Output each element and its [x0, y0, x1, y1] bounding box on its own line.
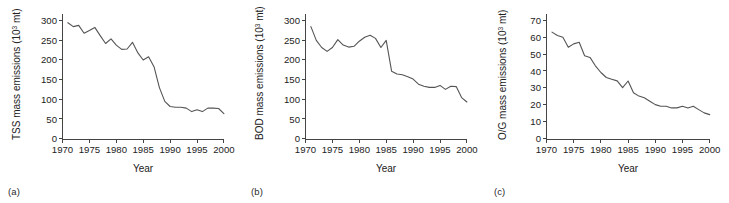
chart-c-xlabel: Year — [618, 163, 639, 174]
xtick-label: 2000 — [699, 144, 720, 155]
ytick-label: 0 — [295, 133, 300, 144]
ytick-label: 300 — [41, 15, 57, 26]
ytick-label: 100 — [41, 94, 57, 105]
ytick-label: 300 — [284, 15, 300, 26]
chart-a-xtick-labels: 1970 1975 1980 1985 1990 1995 2000 — [52, 144, 235, 155]
chart-b-svg: BOD mass emissions (103 mt) 300 250 200 … — [243, 0, 486, 203]
panel-a: TSS mass emissions (103 mt) 300 250 200 … — [0, 0, 243, 203]
chart-b-xlabel: Year — [376, 163, 397, 174]
ytick-label: 150 — [284, 74, 300, 85]
xtick-label: 1975 — [563, 144, 584, 155]
xtick-label: 1970 — [295, 144, 316, 155]
xtick-label: 1985 — [376, 144, 397, 155]
ytick-label: 0 — [52, 133, 57, 144]
xtick-label: 1990 — [402, 144, 423, 155]
chart-b-xtick-labels: 1970 1975 1980 1985 1990 1995 2000 — [295, 144, 478, 155]
ytick-label: 150 — [41, 74, 57, 85]
ytick-label: 0 — [536, 133, 541, 144]
ytick-label: 10 — [530, 116, 541, 127]
ytick-label: 20 — [530, 99, 541, 110]
xtick-label: 1995 — [672, 144, 693, 155]
chart-c-svg: O/G mass emissions (103 mt) 70 60 50 40 … — [486, 0, 729, 203]
xtick-label: 1985 — [133, 144, 154, 155]
chart-a-svg: TSS mass emissions (103 mt) 300 250 200 … — [0, 0, 243, 203]
xtick-label: 1970 — [52, 144, 73, 155]
xtick-label: 2000 — [213, 144, 234, 155]
xtick-label: 1995 — [429, 144, 450, 155]
ytick-label: 30 — [530, 82, 541, 93]
ytick-label: 200 — [284, 54, 300, 65]
panel-c: O/G mass emissions (103 mt) 70 60 50 40 … — [486, 0, 729, 203]
ytick-label: 70 — [530, 15, 541, 26]
panel-b: BOD mass emissions (103 mt) 300 250 200 … — [243, 0, 486, 203]
xtick-label: 1995 — [186, 144, 207, 155]
chart-c-ylabel-group: O/G mass emissions (103 mt) — [497, 10, 509, 140]
figure-three-panel-line-charts: TSS mass emissions (103 mt) 300 250 200 … — [0, 0, 729, 203]
chart-c-ylabel: O/G mass emissions (103 mt) — [497, 10, 509, 140]
ytick-label: 250 — [284, 35, 300, 46]
chart-a-data-line — [68, 23, 224, 114]
ytick-label: 40 — [530, 66, 541, 77]
panel-letter-a: (a) — [8, 186, 20, 197]
chart-c-data-line — [552, 32, 710, 115]
xtick-label: 1990 — [645, 144, 666, 155]
xtick-label: 1975 — [79, 144, 100, 155]
chart-b-axes — [302, 14, 468, 143]
chart-b-ytick-labels: 300 250 200 150 100 50 0 — [284, 15, 300, 144]
chart-c-xtick-labels: 1970 1975 1980 1985 1990 1995 2000 — [536, 144, 721, 155]
xtick-label: 1980 — [349, 144, 370, 155]
ytick-label: 60 — [530, 32, 541, 43]
xtick-label: 1985 — [617, 144, 638, 155]
ytick-label: 250 — [41, 35, 57, 46]
chart-a-xlabel: Year — [133, 163, 154, 174]
panel-letter-c: (c) — [494, 186, 505, 197]
xtick-label: 1970 — [536, 144, 557, 155]
chart-a-axes — [59, 14, 225, 143]
xtick-label: 1980 — [106, 144, 127, 155]
chart-c-axes — [543, 14, 711, 143]
chart-a-ylabel-group: TSS mass emissions (103 mt) — [11, 9, 23, 140]
panel-letter-b: (b) — [251, 186, 263, 197]
ytick-label: 50 — [46, 114, 57, 125]
chart-c-ytick-labels: 70 60 50 40 30 20 10 0 — [530, 15, 541, 144]
xtick-label: 1980 — [590, 144, 611, 155]
ytick-label: 100 — [284, 94, 300, 105]
chart-b-data-line — [311, 27, 467, 102]
ytick-label: 50 — [289, 114, 300, 125]
ytick-label: 50 — [530, 49, 541, 60]
xtick-label: 1990 — [159, 144, 180, 155]
chart-a-ytick-labels: 300 250 200 150 100 50 0 — [41, 15, 57, 144]
chart-a-ylabel: TSS mass emissions (103 mt) — [11, 9, 23, 140]
chart-b-ylabel: BOD mass emissions (103 mt) — [254, 6, 266, 140]
xtick-label: 2000 — [456, 144, 477, 155]
ytick-label: 200 — [41, 54, 57, 65]
chart-b-ylabel-group: BOD mass emissions (103 mt) — [254, 6, 266, 140]
xtick-label: 1975 — [322, 144, 343, 155]
